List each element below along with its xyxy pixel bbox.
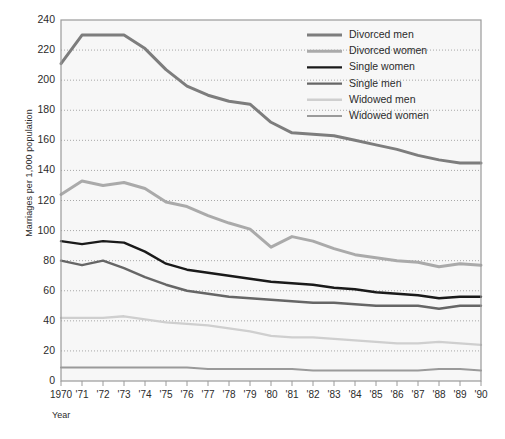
y-tick-label: 40 bbox=[25, 314, 55, 326]
x-axis-title: Year bbox=[52, 410, 70, 420]
y-tick-label: 60 bbox=[25, 284, 55, 296]
x-tick-label: '84 bbox=[344, 389, 366, 400]
legend-label-divorced-men: Divorced men bbox=[349, 28, 414, 40]
x-tick-label: '75 bbox=[155, 389, 177, 400]
y-tick-label: 180 bbox=[25, 103, 55, 115]
y-tick-label: 140 bbox=[25, 163, 55, 175]
x-tick-label: '72 bbox=[92, 389, 114, 400]
x-tick-label: '88 bbox=[428, 389, 450, 400]
x-tick-label: '87 bbox=[407, 389, 429, 400]
y-tick-label: 240 bbox=[25, 13, 55, 25]
y-tick-label: 80 bbox=[25, 254, 55, 266]
x-tick-label: '83 bbox=[323, 389, 345, 400]
x-tick-label: '89 bbox=[449, 389, 471, 400]
x-tick-label: '71 bbox=[71, 389, 93, 400]
x-tick-label: '78 bbox=[218, 389, 240, 400]
legend-label-single-men: Single men bbox=[349, 77, 402, 89]
x-tick-label: '86 bbox=[386, 389, 408, 400]
x-tick-label: '85 bbox=[365, 389, 387, 400]
axis-tickmarks bbox=[61, 381, 481, 386]
legend-label-single-women: Single women bbox=[349, 60, 415, 72]
legend-label-widowed-women: Widowed women bbox=[349, 109, 429, 121]
line-chart-plot bbox=[0, 0, 505, 439]
y-tick-label: 0 bbox=[25, 374, 55, 386]
x-tick-label: '77 bbox=[197, 389, 219, 400]
x-tick-label: '81 bbox=[281, 389, 303, 400]
chart-container: Marriages per 1,000 population Year 2402… bbox=[0, 0, 505, 439]
x-tick-label: '74 bbox=[134, 389, 156, 400]
legend-label-divorced-women: Divorced women bbox=[349, 44, 427, 56]
y-tick-label: 100 bbox=[25, 224, 55, 236]
y-tick-label: 120 bbox=[25, 194, 55, 206]
x-tick-label: '76 bbox=[176, 389, 198, 400]
y-tick-label: 20 bbox=[25, 344, 55, 356]
x-tick-label: '80 bbox=[260, 389, 282, 400]
legend-label-widowed-men: Widowed men bbox=[349, 93, 416, 105]
x-tick-label: '82 bbox=[302, 389, 324, 400]
y-tick-label: 160 bbox=[25, 133, 55, 145]
x-tick-label: '90 bbox=[470, 389, 492, 400]
x-tick-label: '79 bbox=[239, 389, 261, 400]
y-tick-label: 220 bbox=[25, 43, 55, 55]
y-tick-label: 200 bbox=[25, 73, 55, 85]
x-tick-label: '73 bbox=[113, 389, 135, 400]
